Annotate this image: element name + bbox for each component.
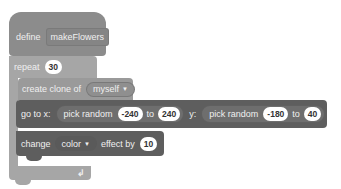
y-label: y: bbox=[189, 109, 196, 119]
pick-random-y-reporter[interactable]: pick random -180 to 40 bbox=[201, 105, 325, 123]
clone-target-value: myself bbox=[93, 84, 119, 94]
create-clone-label: create clone of bbox=[22, 84, 81, 94]
pick-random-label: pick random bbox=[209, 109, 258, 119]
pick-random-x-reporter[interactable]: pick random -240 to 240 bbox=[56, 105, 185, 123]
to-label: to bbox=[292, 109, 300, 119]
pick-random-label: pick random bbox=[64, 109, 113, 119]
random-y-from-input[interactable]: -180 bbox=[263, 107, 288, 121]
effect-type-dropdown[interactable]: color ▼ bbox=[55, 136, 97, 151]
repeat-count-input[interactable]: 30 bbox=[45, 60, 62, 74]
random-x-to-input[interactable]: 240 bbox=[158, 107, 180, 121]
effect-by-label: effect by bbox=[101, 139, 135, 149]
procedure-name: makeFlowers bbox=[51, 32, 105, 42]
repeat-block-footer: ↲ bbox=[9, 166, 91, 180]
chevron-down-icon: ▼ bbox=[84, 141, 90, 147]
repeat-bottom-notch bbox=[15, 180, 31, 185]
random-x-from-input[interactable]: -240 bbox=[118, 107, 143, 121]
go-to-xy-block[interactable]: go to x: pick random -240 to 240 y: pick… bbox=[16, 100, 327, 128]
repeat-block[interactable]: repeat 30 bbox=[9, 56, 97, 78]
define-keyword: define bbox=[16, 32, 41, 42]
change-effect-block[interactable]: change color ▼ effect by 10 bbox=[16, 131, 164, 156]
custom-block-prototype[interactable]: makeFlowers bbox=[46, 28, 110, 46]
random-y-to-input[interactable]: 40 bbox=[304, 107, 321, 121]
loop-arrow-icon: ↲ bbox=[77, 168, 85, 178]
change-block-notch bbox=[26, 156, 42, 161]
change-label: change bbox=[21, 139, 51, 149]
go-to-x-label: go to x: bbox=[21, 109, 51, 119]
to-label: to bbox=[147, 109, 155, 119]
effect-type-value: color bbox=[62, 139, 82, 149]
clone-target-dropdown[interactable]: myself ▼ bbox=[86, 82, 135, 97]
chevron-down-icon: ▼ bbox=[122, 86, 128, 92]
create-clone-block[interactable]: create clone of myself ▼ bbox=[18, 78, 133, 100]
effect-amount-input[interactable]: 10 bbox=[140, 137, 157, 151]
define-hat-block[interactable]: define makeFlowers bbox=[9, 12, 106, 56]
repeat-keyword: repeat bbox=[14, 62, 40, 72]
